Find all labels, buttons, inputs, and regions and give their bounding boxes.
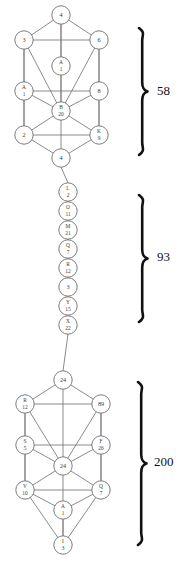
tree-node[interactable]: A1 (54, 501, 72, 519)
tree-edge (24, 40, 61, 111)
braces-layer: 5893200 (138, 28, 174, 545)
figure-canvas: 436A1A18B202K94L2O11M21Q7R123Y15X2224R12… (0, 0, 185, 566)
brace-sum-value: 200 (154, 454, 174, 469)
tree-node[interactable]: Y15 (59, 297, 77, 315)
node-number: 26 (98, 445, 104, 451)
tree-of-life-figure: 436A1A18B202K94L2O11M21Q7R123Y15X2224R12… (0, 0, 185, 566)
tree-node[interactable]: 4 (52, 6, 70, 24)
node-number: 12 (22, 404, 28, 410)
tree-node[interactable]: 8 (90, 82, 108, 100)
node-letter: R (23, 397, 27, 403)
node-number: 4 (59, 11, 62, 18)
node-number: 3 (22, 36, 25, 43)
node-letter: V (23, 483, 27, 489)
tree-node[interactable]: X22 (59, 316, 77, 334)
node-number: 10 (22, 490, 28, 496)
tree-node[interactable]: 3 (15, 31, 33, 49)
node-number: 8 (97, 87, 100, 94)
tree-node[interactable]: R12 (16, 395, 34, 413)
node-letter: R (66, 261, 70, 267)
node-number: 20 (58, 111, 64, 117)
node-number: 24 (60, 376, 66, 383)
tree-node[interactable]: A1 (15, 82, 33, 100)
tree-node[interactable]: S5 (16, 436, 34, 454)
brace-sum-value: 93 (157, 249, 170, 264)
node-number: 22 (65, 325, 71, 331)
tree-edge (63, 404, 101, 466)
node-number: 7 (100, 490, 103, 496)
tree-node[interactable]: 4 (52, 149, 70, 167)
tree-node[interactable]: M21 (59, 221, 77, 239)
node-letter: S (24, 438, 27, 444)
node-number: 6 (97, 36, 100, 43)
tree-node[interactable]: Q7 (59, 240, 77, 258)
tree-node[interactable]: R12 (59, 259, 77, 277)
node-letter: Q (99, 483, 103, 489)
tree-node[interactable]: Q7 (92, 481, 110, 499)
tree-node[interactable]: 6 (90, 31, 108, 49)
node-number: 5 (24, 445, 27, 451)
node-number: 2 (67, 192, 70, 198)
tree-node[interactable]: O11 (59, 202, 77, 220)
node-letter: F (100, 438, 103, 444)
node-number: 9 (98, 135, 101, 141)
tree-node[interactable]: I3 (54, 536, 72, 554)
tree-edge (25, 404, 63, 466)
node-letter: M (66, 223, 71, 229)
node-number: 15 (65, 306, 71, 312)
group-brace (138, 382, 147, 545)
node-number: 11 (65, 211, 70, 217)
connector-top-to-chain (61, 167, 68, 183)
tree-node[interactable]: 89 (92, 395, 110, 413)
node-letter: A (59, 59, 63, 65)
tree-node[interactable]: A1 (52, 57, 70, 75)
node-number: 24 (60, 462, 66, 469)
tree-edge (61, 40, 99, 111)
node-number: 2 (22, 131, 25, 138)
node-letter: Y (66, 299, 70, 305)
node-letter: L (66, 185, 69, 191)
tree-node[interactable]: 24 (54, 371, 72, 389)
node-number: 1 (60, 66, 63, 72)
node-letter: K (97, 128, 101, 134)
tree-node[interactable]: B20 (52, 102, 70, 120)
group-brace (139, 195, 148, 322)
tree-node[interactable]: K9 (90, 126, 108, 144)
tree-node[interactable]: L2 (59, 183, 77, 201)
group-brace (139, 28, 148, 155)
tree-node[interactable]: 2 (15, 126, 33, 144)
node-number: 1 (23, 91, 26, 97)
tree-node[interactable]: 24 (54, 457, 72, 475)
node-letter: B (59, 104, 63, 110)
node-letter: Q (66, 242, 70, 248)
node-number: 12 (65, 268, 71, 274)
brace-sum-value: 58 (157, 83, 170, 98)
node-number: 1 (62, 510, 65, 516)
node-letter: A (22, 84, 26, 90)
node-letter: I (62, 538, 64, 544)
node-letter: X (66, 318, 70, 324)
node-number: 89 (98, 400, 104, 407)
connector-chain-to-bottom (63, 334, 68, 371)
node-number: 3 (62, 545, 65, 551)
node-letter: O (66, 204, 70, 210)
tree-node[interactable]: F26 (92, 436, 110, 454)
node-number: 4 (59, 154, 62, 161)
node-number: 3 (66, 283, 69, 290)
node-number: 7 (67, 249, 70, 255)
tree-node[interactable]: 3 (59, 278, 77, 296)
node-letter: A (61, 503, 65, 509)
node-number: 21 (65, 230, 71, 236)
tree-node[interactable]: V10 (16, 481, 34, 499)
nodes-layer: 436A1A18B202K94L2O11M21Q7R123Y15X2224R12… (15, 6, 110, 554)
